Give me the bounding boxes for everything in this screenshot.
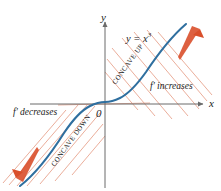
fprime-decreases-label: f′ decreases xyxy=(13,108,57,118)
cubic-curve xyxy=(20,24,186,186)
x-axis-label: x xyxy=(209,98,214,109)
function-exponent: 3 xyxy=(148,31,152,39)
upper-right-arrow xyxy=(178,26,204,60)
figure-canvas xyxy=(0,0,221,191)
fprime-increases-label: f′ increases xyxy=(150,82,193,92)
y-axis-label: y xyxy=(101,12,106,23)
function-equation-text: y = x xyxy=(126,33,148,44)
origin-label: 0 xyxy=(96,108,102,119)
calculus-concavity-figure: y x 0 y = x3 f′ increases f′ decreases C… xyxy=(0,0,221,191)
